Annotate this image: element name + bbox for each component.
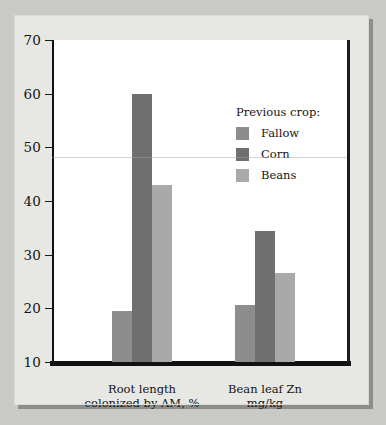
y-axis-tick [45,308,52,309]
bar-beans-group1 [152,185,172,362]
y-axis-tick-label: 10 [23,354,41,370]
chart-legend: Previous crop: FallowCornBeans [236,105,320,189]
y-axis-tick [45,94,52,95]
y-axis-tick-label: 70 [23,32,41,48]
legend-entries: FallowCornBeans [236,126,320,182]
x-axis-category-label-2: Bean leaf Zn mg/kg [185,383,345,410]
plot-right-border [347,40,350,363]
bar-corn-group1 [132,94,152,362]
legend-label-beans: Beans [261,168,296,182]
legend-label-corn: Corn [261,147,290,161]
legend-label-fallow: Fallow [261,126,299,140]
y-axis-tick-label: 60 [23,86,41,102]
legend-title: Previous crop: [236,105,320,119]
y-axis-line [52,40,54,362]
y-axis-tick-label: 50 [23,139,41,155]
bar-fallow-group1 [112,311,132,362]
legend-swatch-beans [236,169,249,182]
bar-corn-group2 [255,231,275,362]
legend-swatch-fallow [236,127,249,140]
legend-item-fallow: Fallow [236,126,320,140]
y-axis-tick [45,40,52,41]
y-axis-tick [45,147,52,148]
y-axis-tick-label: 30 [23,247,41,263]
x-axis-line [50,361,351,366]
legend-swatch-corn [236,148,249,161]
y-axis-tick [45,201,52,202]
legend-item-corn: Corn [236,147,320,161]
bar-beans-group2 [275,273,295,362]
plot-area: 10203040506070 Previous crop: FallowCorn… [52,40,347,362]
y-axis-tick-label: 20 [23,300,41,316]
bar-fallow-group2 [235,305,255,362]
y-axis-tick-label: 40 [23,193,41,209]
y-axis-tick [45,255,52,256]
y-axis-tick [45,362,52,363]
legend-item-beans: Beans [236,168,320,182]
figure-card: 10203040506070 Previous crop: FallowCorn… [14,15,369,405]
